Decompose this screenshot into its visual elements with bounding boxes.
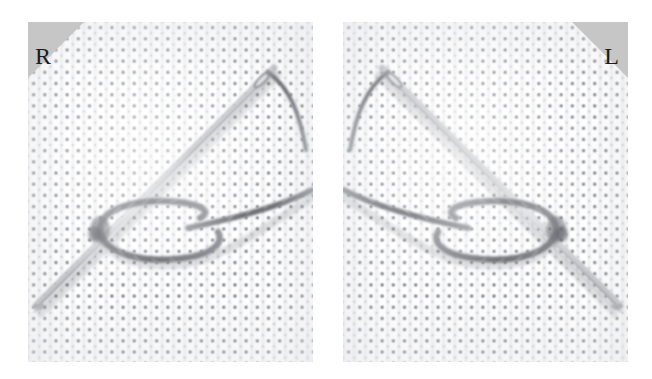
needle-shaft xyxy=(379,68,620,310)
cast-shadow xyxy=(41,76,312,314)
needle-shaft xyxy=(36,68,277,310)
figure-container: R xyxy=(0,0,652,379)
cast-shadow xyxy=(344,76,615,314)
handedness-marker-right: R xyxy=(28,22,84,78)
handedness-marker-left: L xyxy=(572,22,628,78)
thread-loop xyxy=(436,201,556,259)
photo-panel-right-handed: R xyxy=(28,22,313,362)
marker-label: L xyxy=(604,44,619,68)
thread-loop xyxy=(100,201,220,259)
marker-label: R xyxy=(35,44,51,68)
photo-panel-left-handed: L xyxy=(343,22,628,362)
marker-triangle-icon xyxy=(572,22,628,78)
